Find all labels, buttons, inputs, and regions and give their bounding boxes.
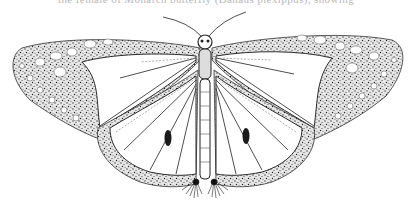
antennae — [163, 12, 246, 36]
butterfly-illustration — [0, 0, 418, 218]
left-antenna — [163, 17, 201, 36]
butterfly-body — [198, 35, 212, 179]
right-antenna — [209, 12, 246, 36]
thorax — [199, 49, 211, 79]
abdomen — [200, 79, 210, 179]
left-scent-patch — [165, 130, 172, 146]
right-scent-patch — [243, 128, 250, 144]
head — [198, 35, 212, 49]
